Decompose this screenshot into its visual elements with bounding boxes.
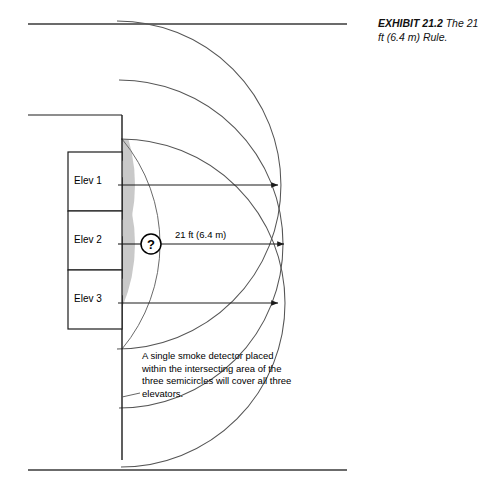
note-line-1: A single smoke detector placed <box>142 350 322 363</box>
note-line-2: within the intersecting area of the <box>142 363 322 376</box>
elevator-label-2: Elev 2 <box>74 234 102 245</box>
note-line-4: elevators. <box>142 388 322 401</box>
note-line-3: three semicircles will cover all three <box>142 375 322 388</box>
explanatory-note: A single smoke detector placed within th… <box>142 350 322 400</box>
smoke-detector-glyph: ? <box>147 237 155 252</box>
elevator-label-1: Elev 1 <box>74 175 102 186</box>
radius-dimension-label: 21 ft (6.4 m) <box>175 229 226 240</box>
exhibit-label: EXHIBIT 21.2 <box>378 17 443 29</box>
exhibit-figure: ? Elev 1 Elev 2 Elev 3 21 ft (6.4 m) A s… <box>0 0 487 486</box>
note-leader-lines <box>122 393 140 397</box>
elevator-label-3: Elev 3 <box>74 293 102 304</box>
exhibit-caption: EXHIBIT 21.2 The 21 ft (6.4 m) Rule. <box>378 16 482 44</box>
